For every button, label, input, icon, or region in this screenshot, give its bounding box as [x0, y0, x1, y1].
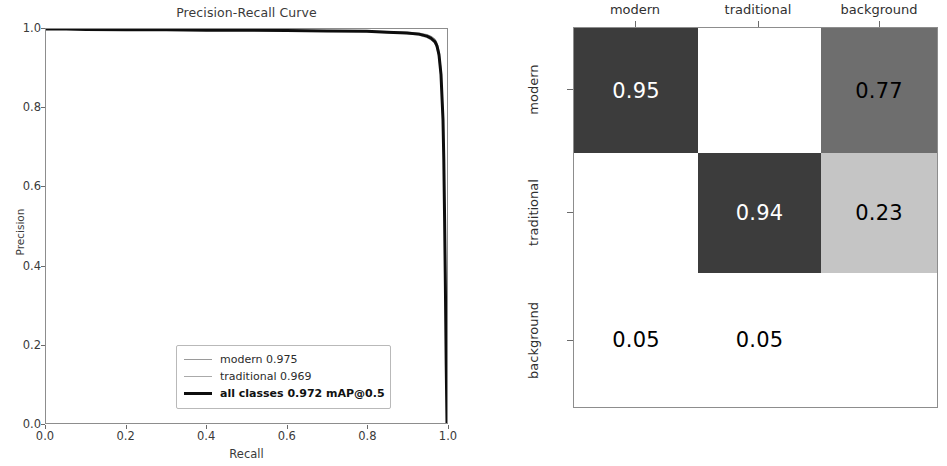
legend-line-icon	[184, 359, 212, 360]
y-tick-label: 0.8	[5, 100, 41, 114]
x-tick-label: 0.4	[184, 429, 228, 443]
matrix-cell: 0.94	[698, 153, 821, 273]
matrix-cell	[574, 153, 698, 273]
row-header-modern: modern	[526, 35, 541, 145]
column-header-traditional: traditional	[688, 2, 828, 17]
confusion-matrix-chart: modern traditional background modern tra…	[500, 0, 947, 466]
chart-legend: modern 0.975 traditional 0.969 all class…	[176, 345, 391, 409]
x-tick-label: 1.0	[426, 429, 470, 443]
x-tick-label: 0.8	[345, 429, 389, 443]
legend-item: all classes 0.972 mAP@0.5	[184, 385, 383, 402]
matrix-cell: 0.77	[821, 28, 937, 153]
y-tick-label: 0.2	[5, 338, 41, 352]
y-axis-label: Precision	[14, 192, 26, 272]
chart-title: Precision-Recall Curve	[45, 5, 448, 20]
legend-label: traditional 0.969	[220, 370, 311, 383]
column-header-modern: modern	[565, 2, 705, 17]
precision-recall-chart: Precision-Recall Curve 0.0 0.2 0.4 0.6 0…	[0, 0, 500, 466]
matrix-grid: 0.95 0.77 0.94 0.23 0.05 0.05	[573, 27, 938, 408]
matrix-cell: 0.95	[574, 28, 698, 153]
legend-item: modern 0.975	[184, 351, 383, 368]
matrix-cell: 0.05	[574, 273, 698, 407]
matrix-cell	[698, 28, 821, 153]
row-header-background: background	[526, 286, 541, 396]
legend-line-icon	[184, 392, 212, 395]
column-header-background: background	[809, 2, 947, 17]
x-tick-label: 0.6	[265, 429, 309, 443]
legend-label: all classes 0.972 mAP@0.5	[220, 387, 385, 400]
x-tick-label: 0.2	[104, 429, 148, 443]
matrix-cell: 0.05	[698, 273, 821, 407]
legend-label: modern 0.975	[220, 353, 297, 366]
matrix-cell	[821, 273, 937, 407]
legend-line-icon	[184, 376, 212, 377]
x-tick-label: 0.0	[23, 429, 67, 443]
matrix-cell: 0.23	[821, 153, 937, 273]
y-tick-label: 1.0	[5, 21, 41, 35]
legend-item: traditional 0.969	[184, 368, 383, 385]
x-axis-label: Recall	[45, 447, 448, 461]
row-header-traditional: traditional	[526, 158, 541, 268]
